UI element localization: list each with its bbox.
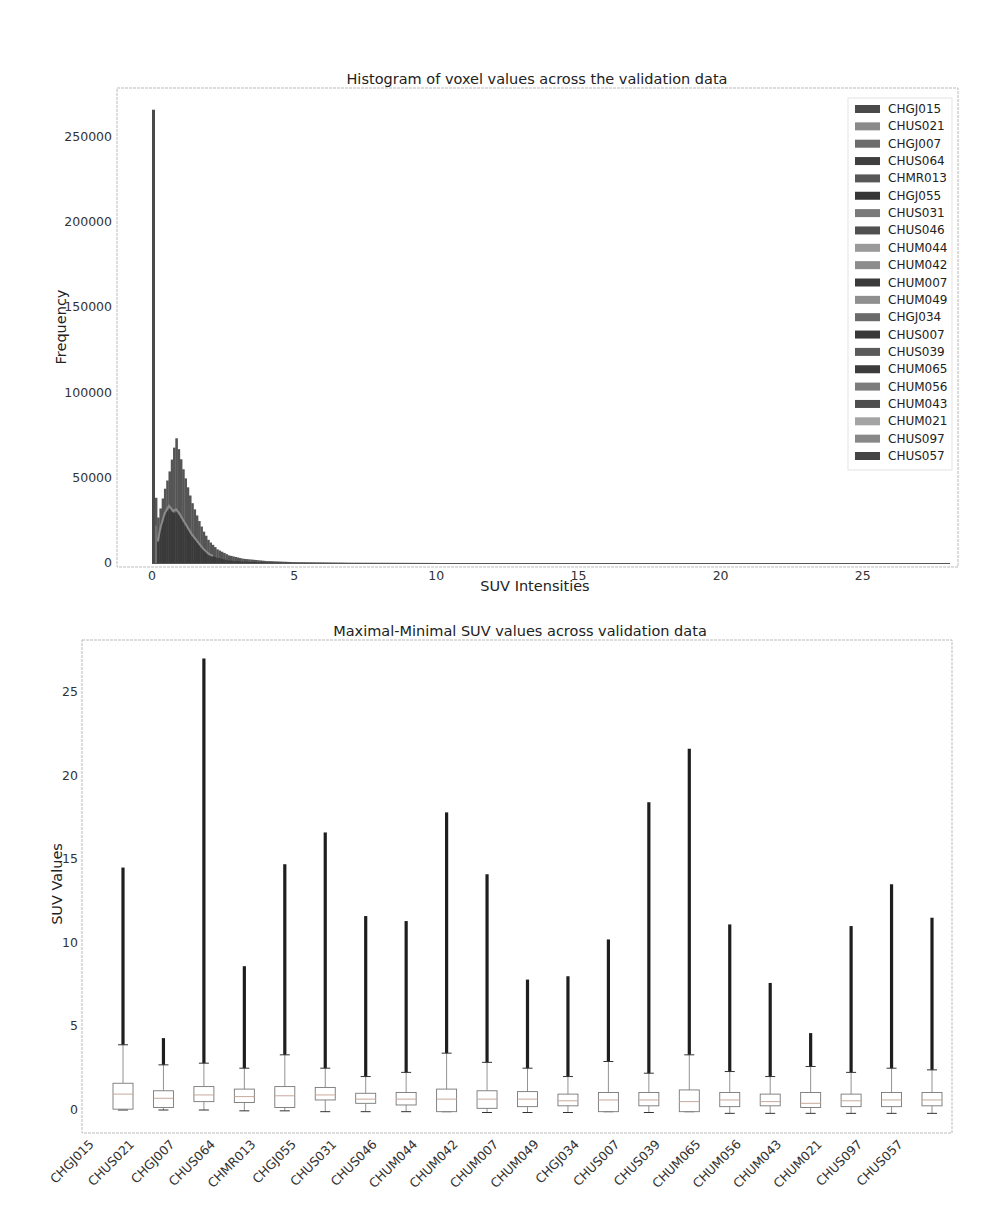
legend-swatch (855, 279, 880, 287)
boxplot-y-axis-label: SUV Values (49, 843, 65, 925)
legend-swatch (855, 313, 880, 321)
histogram-bar-inner (214, 557, 217, 563)
box-item (720, 924, 740, 1113)
box-iqr (598, 1092, 618, 1111)
histogram-bar-inner (237, 561, 240, 563)
histogram-bar-inner (171, 512, 174, 563)
histogram-bar-inner (228, 560, 231, 563)
histogram-bar-inner (248, 562, 251, 563)
histogram-bar-inner (234, 561, 237, 563)
legend-swatch (855, 226, 880, 234)
box-item (598, 939, 618, 1111)
legend-swatch (855, 400, 880, 408)
legend-swatch (855, 365, 880, 373)
histogram-bar-inner (225, 560, 228, 563)
legend-label: CHUS021 (888, 119, 945, 133)
legend-swatch (855, 331, 880, 339)
box-iqr (315, 1087, 335, 1100)
box-item (275, 864, 295, 1111)
y-tick-label: 0 (70, 1102, 78, 1117)
figure: Histogram of voxel values across the val… (0, 0, 1006, 1217)
legend-label: CHGJ034 (888, 310, 941, 324)
boxplot-chart: Maximal-Minimal SUV values across valida… (47, 623, 952, 1191)
box-item (356, 916, 376, 1112)
histogram-x-axis-label: SUV Intensities (480, 578, 589, 594)
box-iqr (639, 1092, 659, 1105)
histogram-bar-inner (189, 533, 192, 563)
legend-label: CHUS007 (888, 328, 945, 342)
histogram-bar-inner (203, 550, 206, 563)
histogram-bar-inner (212, 556, 215, 563)
legend-label: CHUS064 (888, 154, 945, 168)
histogram-bar-inner (244, 562, 247, 563)
legend-label: CHGJ007 (888, 137, 941, 151)
box-item (518, 980, 538, 1113)
y-tick-label: 150000 (64, 299, 112, 314)
histogram-bar-inner (162, 522, 165, 563)
histogram-bar-inner (184, 526, 187, 563)
box-item (153, 1038, 173, 1110)
histogram-bar-inner (166, 511, 169, 563)
legend-swatch (855, 140, 880, 148)
histogram-bar-inner (223, 559, 226, 563)
legend-label: CHUS039 (888, 345, 945, 359)
histogram-bar-inner (200, 547, 203, 563)
box-iqr (356, 1093, 376, 1103)
histogram-bar-inner (250, 562, 253, 563)
histogram-y-ticks: 050000100000150000200000250000 (64, 129, 112, 570)
legend-swatch (855, 105, 880, 113)
histogram-chart: Histogram of voxel values across the val… (53, 71, 958, 594)
y-tick-label: 5 (70, 1018, 78, 1033)
histogram-bar-inner (230, 561, 233, 563)
box-item (437, 812, 457, 1111)
histogram-bar-inner (196, 542, 199, 563)
box-iqr (234, 1089, 254, 1102)
histogram-plot-frame (117, 88, 958, 567)
legend-swatch (855, 174, 880, 182)
box-iqr (922, 1092, 942, 1105)
boxplot-title: Maximal-Minimal SUV values across valida… (333, 623, 707, 639)
histogram-bar-inner (168, 509, 171, 563)
legend-label: CHUM056 (888, 380, 947, 394)
histogram-bars (152, 110, 950, 564)
legend-label: CHUS046 (888, 223, 945, 237)
histogram-bar-inner (182, 522, 185, 563)
histogram-title: Histogram of voxel values across the val… (346, 71, 727, 87)
histogram-bar-inner (253, 562, 256, 563)
legend-label: CHUS097 (888, 432, 945, 446)
histogram-bar-inner (257, 562, 260, 563)
box-item (194, 659, 214, 1110)
histogram-bar-inner (209, 555, 212, 563)
legend-label: CHUM065 (888, 362, 947, 376)
histogram-bar-inner (216, 558, 219, 563)
histogram-bar-inner (191, 536, 194, 563)
histogram-bar-inner (157, 540, 160, 563)
x-tick-label: 5 (290, 568, 298, 583)
histogram-bar-inner (246, 562, 249, 563)
histogram-bar-inner (194, 539, 197, 563)
histogram-bar-inner (198, 545, 201, 563)
histogram-bar-inner (255, 562, 258, 563)
histogram-bar-inner (173, 513, 176, 563)
box-item (477, 874, 497, 1112)
legend-swatch (855, 383, 880, 391)
legend-swatch (855, 244, 880, 252)
legend-swatch (855, 192, 880, 200)
box-item (558, 976, 578, 1112)
y-tick-label: 200000 (64, 214, 112, 229)
box-iqr (801, 1092, 821, 1107)
box-iqr (760, 1094, 780, 1106)
boxplot-x-tick-labels: CHGJ015CHUS021CHGJ007CHUS064CHMR013CHGJ0… (47, 1136, 906, 1190)
boxplot-plot-frame (82, 640, 952, 1133)
histogram-bar-inner (232, 561, 235, 563)
histogram-bar-inner (239, 561, 242, 563)
box-item (679, 749, 699, 1112)
box-iqr (437, 1089, 457, 1112)
legend-label: CHUS031 (888, 206, 945, 220)
legend-swatch (855, 261, 880, 269)
histogram-bar-inner (259, 562, 262, 563)
legend-label: CHGJ055 (888, 189, 941, 203)
legend-label: CHUM007 (888, 276, 947, 290)
histogram-bar-inner (219, 558, 222, 563)
legend-swatch (855, 417, 880, 425)
